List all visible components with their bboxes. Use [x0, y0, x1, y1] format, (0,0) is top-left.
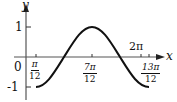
x-tick-label-pi-12-num: π: [31, 60, 39, 71]
y-axis-label: y: [22, 0, 29, 11]
x-tick-label-13pi-12-num: 13π: [141, 63, 160, 74]
x-annotation-2pi-text: 2π: [129, 40, 143, 53]
origin-label: 0: [14, 61, 22, 73]
x-tick-label-13pi-12-num-text: 13π: [142, 62, 159, 72]
x-tick-label-7pi-12: 7π 12: [83, 63, 97, 84]
y-tick-label-neg1: -1: [7, 81, 19, 93]
x-tick-label-pi-12-den: 12: [29, 71, 40, 81]
x-tick-label-pi-12-num-text: π: [32, 59, 38, 69]
x-axis-arrow-icon: [156, 54, 165, 60]
y-tick-label-1: 1: [15, 21, 23, 33]
sine-graph: [0, 0, 177, 102]
x-tick-label-pi-12: π 12: [29, 60, 40, 81]
x-tick-label-13pi-12: 13π 12: [141, 63, 160, 84]
x-tick-label-13pi-12-den: 12: [145, 74, 156, 84]
x-axis-label: x: [166, 50, 173, 62]
x-tick-label-7pi-12-num: 7π: [83, 63, 97, 74]
x-tick-label-7pi-12-num-text: 7π: [84, 62, 96, 72]
x-tick-label-7pi-12-den: 12: [84, 74, 95, 84]
x-annotation-2pi: 2π: [129, 41, 143, 52]
